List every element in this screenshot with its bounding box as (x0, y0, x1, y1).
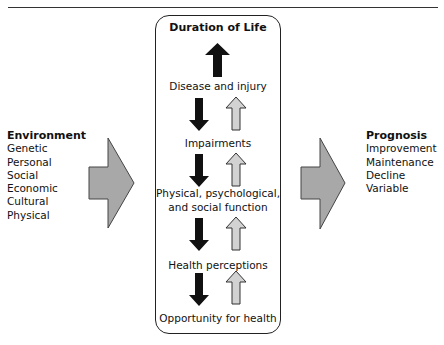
environment-item: Social (7, 169, 86, 182)
prognosis-item: Improvement (366, 142, 437, 155)
prognosis-item: Variable (366, 182, 437, 195)
environment-heading: Environment (7, 129, 86, 142)
environment-item: Economic (7, 182, 86, 195)
prognosis-heading: Prognosis (366, 129, 437, 142)
environment-item: Genetic (7, 142, 86, 155)
prognosis-list: Prognosis Improvement Maintenance Declin… (366, 129, 437, 195)
environment-item: Physical (7, 209, 86, 222)
diagram-canvas: Duration of Life Disease and injury Impa… (0, 0, 444, 345)
environment-item: Cultural (7, 195, 86, 208)
center-flow-box (155, 15, 281, 334)
stage-health-perceptions: Health perceptions (155, 258, 281, 272)
environment-item: Personal (7, 156, 86, 169)
prognosis-item: Decline (366, 169, 437, 182)
stage-function-line1: Physical, psychological, (155, 186, 281, 200)
prognosis-block-arrow-icon (301, 138, 345, 229)
stage-opportunity-for-health: Opportunity for health (155, 311, 281, 325)
environment-block-arrow-icon (89, 138, 134, 228)
stage-function-line2: and social function (155, 200, 281, 214)
stage-disease-and-injury: Disease and injury (155, 79, 281, 93)
environment-list: Environment Genetic Personal Social Econ… (7, 129, 86, 222)
duration-of-life-title: Duration of Life (155, 21, 281, 35)
stage-impairments: Impairments (155, 136, 281, 150)
prognosis-item: Maintenance (366, 156, 437, 169)
